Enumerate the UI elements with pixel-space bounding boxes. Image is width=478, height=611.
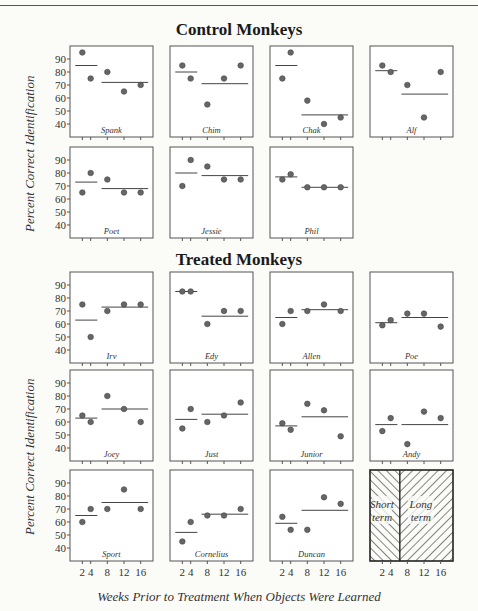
data-point [280,321,286,327]
x-tick-label: 8 [105,566,111,578]
data-point [405,82,411,88]
data-point [421,409,427,415]
panel-andy: Andy [370,370,453,464]
monkey-name-label: Junior [300,449,323,459]
data-point [238,400,244,406]
x-tick-label: 4 [88,566,94,578]
panel-phil: Phil [270,147,353,241]
data-point [188,289,194,295]
small-multiples-chart: SpankChimChakAlfPoetJessiePhilIrvEdyAlle… [0,0,478,611]
data-point [305,401,311,407]
x-tick-label: 16 [435,566,447,578]
panel-frame [370,46,453,137]
data-point [105,69,111,75]
monkey-name-label: Cornelius [195,549,229,559]
panel-frame [70,272,153,363]
data-point [338,115,344,121]
panel-edy: Edy [170,272,253,366]
y-tick-label: 80 [55,292,67,304]
data-point [188,406,194,412]
panel-cornelius: Cornelius [170,470,253,564]
data-point [80,302,86,308]
data-point [288,427,294,433]
monkey-name-label: Poet [103,226,120,236]
data-point [421,115,427,121]
data-point [305,527,311,533]
monkey-name-label: Joey [104,449,120,459]
monkey-name-label: Jessie [201,226,222,236]
panel-irv: Irv [70,272,153,366]
y-tick-label: 40 [55,219,67,231]
y-tick-label: 80 [55,390,67,402]
monkey-name-label: Edy [204,351,218,361]
data-point [180,426,186,432]
legend-long-label: Long [409,498,433,510]
data-point [121,302,127,308]
data-point [188,76,194,82]
data-point [205,513,211,519]
panel-frame [170,272,253,363]
x-tick-label: 2 [280,566,286,578]
data-point [221,308,227,314]
panel-poe: Poe [370,272,453,366]
y-tick-label: 80 [55,66,67,78]
data-point [105,393,111,399]
data-point [80,519,86,525]
data-point [205,164,211,170]
data-point [288,50,294,56]
panel-chak: Chak [270,46,353,140]
panel-frame [170,470,253,561]
legend-panel: ShorttermLongterm [370,470,453,564]
panel-spank: Spank [70,46,153,140]
data-point [338,501,344,507]
data-point [405,441,411,447]
monkey-name-label: Chak [303,125,321,135]
monkey-name-label: Allen [302,351,321,361]
y-tick-label: 60 [55,193,67,205]
data-point [88,334,94,340]
data-point [388,69,394,75]
x-tick-label: 2 [80,566,86,578]
data-point [180,539,186,545]
y-tick-label: 70 [55,305,67,317]
monkey-name-label: Just [205,449,219,459]
panel-jessie: Jessie [170,147,253,241]
y-tick-label: 50 [55,206,67,218]
data-point [180,289,186,295]
y-tick-label: 50 [55,105,67,117]
data-point [380,63,386,69]
panel-joey: Joey [70,370,153,464]
data-point [238,506,244,512]
data-point [105,506,111,512]
x-tick-label: 2 [180,566,186,578]
data-point [138,506,144,512]
y-tick-label: 90 [55,279,67,291]
y-tick-label: 60 [55,92,67,104]
panel-frame [270,46,353,137]
x-tick-label: 2 [380,566,386,578]
data-point [321,302,327,308]
legend-short-label-term: term [372,511,392,523]
monkey-name-label: Chim [202,125,220,135]
monkey-name-label: Irv [106,351,117,361]
x-tick-label: 16 [235,566,247,578]
y-tick-label: 50 [55,429,67,441]
x-tick-label: 16 [335,566,347,578]
y-tick-label: 70 [55,403,67,415]
monkey-name-label: Phil [303,226,319,236]
data-point [388,415,394,421]
data-point [205,321,211,327]
data-point [121,487,127,493]
x-tick-label: 12 [119,566,130,578]
data-point [338,434,344,440]
panel-frame [70,46,153,137]
data-point [105,177,111,183]
x-tick-label: 12 [319,566,330,578]
panel-allen: Allen [270,272,353,366]
y-tick-label: 50 [55,529,67,541]
data-point [121,89,127,95]
x-tick-label: 8 [205,566,211,578]
y-tick-label: 70 [55,180,67,192]
data-point [380,323,386,329]
monkey-name-label: Poe [404,351,418,361]
